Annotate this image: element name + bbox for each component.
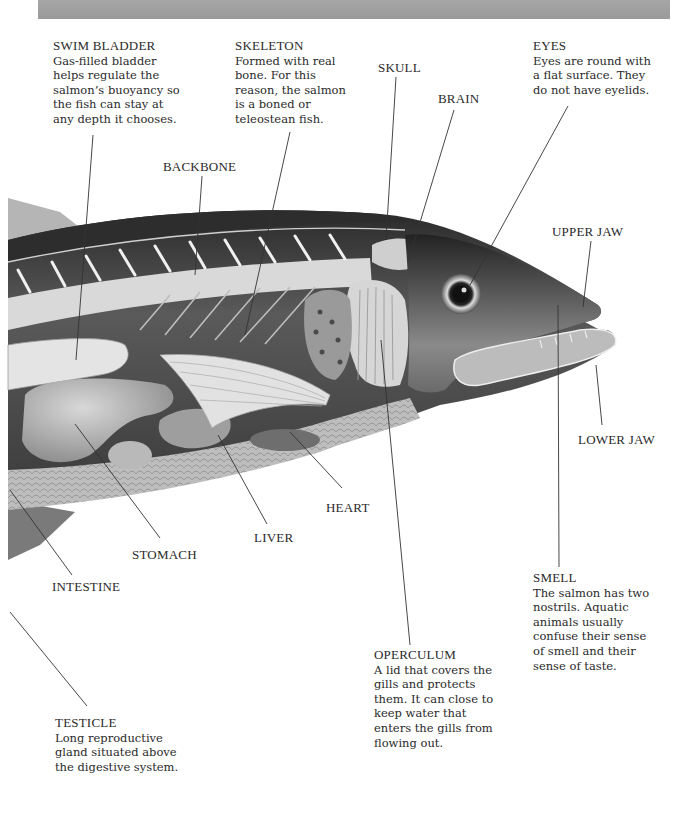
label-upper-jaw: UPPER JAW: [552, 224, 623, 239]
callout-description: A lid that covers the gills and protects…: [374, 663, 493, 751]
callout-title: SKELETON: [235, 39, 346, 54]
heart: [250, 429, 320, 451]
callout-smell: SMELL The salmon has two nostrils. Aquat…: [533, 571, 649, 673]
callout-title: EYES: [533, 39, 651, 54]
label-heart: HEART: [326, 500, 370, 515]
callout-skeleton: SKELETON Formed with real bone. For this…: [235, 39, 346, 127]
callout-title: TESTICLE: [55, 716, 178, 731]
callout-description: Long reproductive gland situated above t…: [55, 731, 178, 775]
label-liver: LIVER: [254, 530, 293, 545]
label-lower-jaw: LOWER JAW: [578, 432, 655, 447]
callout-description: Formed with real bone. For this reason, …: [235, 54, 346, 127]
callout-title: SWIM BLADDER: [53, 39, 180, 54]
callout-testicle: TESTICLE Long reproductive gland situate…: [55, 716, 178, 774]
label-stomach: STOMACH: [132, 547, 197, 562]
callout-title: SMELL: [533, 571, 649, 586]
callout-swim-bladder: SWIM BLADDER Gas-filled bladder helps re…: [53, 39, 180, 127]
callout-title: OPERCULUM: [374, 648, 493, 663]
callout-operculum: OPERCULUM A lid that covers the gills an…: [374, 648, 493, 750]
label-intestine: INTESTINE: [52, 579, 120, 594]
pyloric-caeca: [108, 441, 152, 469]
label-skull: SKULL: [378, 60, 421, 75]
callout-description: The salmon has two nostrils. Aquatic ani…: [533, 586, 649, 674]
callout-eyes: EYES Eyes are round with a flat surface.…: [533, 39, 651, 97]
label-brain: BRAIN: [438, 91, 479, 106]
label-backbone: BACKBONE: [163, 159, 236, 174]
callout-description: Gas-filled bladder helps regulate the sa…: [53, 54, 180, 127]
callout-description: Eyes are round with a flat surface. They…: [533, 54, 651, 98]
